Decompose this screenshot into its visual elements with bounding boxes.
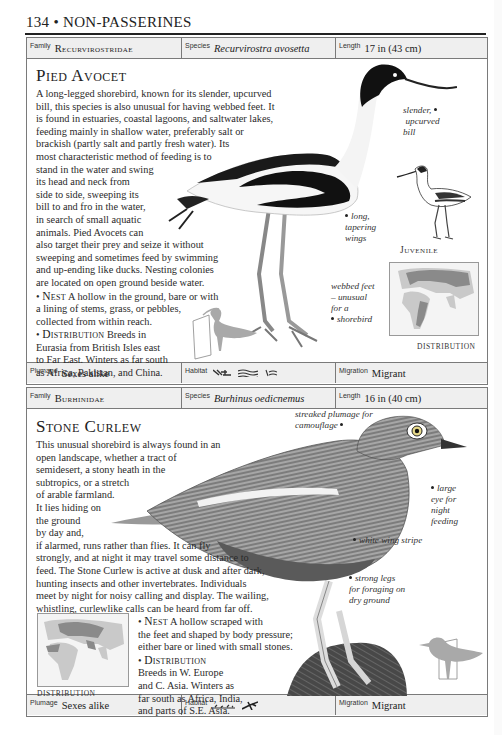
annotation-wing-stripe: white wing stripe: [353, 535, 422, 546]
annotation-bill: slender, upcurved bill: [403, 105, 440, 138]
description-line: semidesert, a stony heath in the: [36, 464, 269, 477]
distribution-line: and parts of S.E. Asia.: [138, 705, 293, 718]
description-line: sweeping and sometimes feed by swimming: [36, 252, 275, 265]
nest-line: the feet and shaped by body pressure;: [138, 629, 293, 642]
species-title: Stone Curlew: [36, 417, 141, 437]
plumage-value: Sexes alike: [62, 700, 110, 711]
species-value: Burhinus oedicnemus: [214, 393, 305, 404]
distribution-line: Breeds in W. Europe: [138, 667, 293, 680]
nest-line: either bare or lined with small stones.: [138, 641, 293, 654]
juvenile-caption: Juvenile: [400, 245, 438, 255]
habitat-label: Habitat: [185, 367, 207, 374]
description-line: by day and,: [36, 527, 269, 540]
length-label: Length: [339, 42, 360, 49]
plumage-label: Plumage: [30, 367, 58, 374]
distribution-line: and C. Asia. Winters as: [138, 680, 293, 693]
family-label: Family: [30, 42, 51, 49]
description-line: It lies hiding on: [36, 502, 269, 515]
family-cell: Family Recurvirostridae: [27, 38, 182, 58]
length-value: 16 in (40 cm): [364, 393, 421, 404]
description-line: meet by night for noisy calling and disp…: [36, 590, 269, 603]
description-line: A long-legged shorebird, known for its s…: [36, 88, 275, 101]
map-caption: DISTRIBUTION: [417, 342, 476, 351]
length-value: 17 in (43 cm): [364, 43, 421, 54]
world-map-icon: [38, 614, 128, 686]
species-cell: Species Burhinus oedicnemus: [182, 388, 336, 408]
description-line: subtropics, or a stretch: [36, 477, 269, 490]
annotation-wings: long, tapering wings: [345, 211, 376, 244]
description-line: if alarmed, runs rather than flies. It c…: [36, 540, 269, 553]
entry-top-bar: Family Burhinidae Species Burhinus oedic…: [27, 388, 487, 409]
species-label: Species: [185, 392, 210, 399]
annotation-feet: webbed feet – unusual for a shorebird: [331, 281, 375, 325]
migration-cell: Migration Migrant: [336, 363, 487, 383]
distribution-label: Distribution: [42, 328, 104, 340]
description-line: bill to and fro in the water,: [36, 201, 275, 214]
description-line: most characteristic method of feeding is…: [36, 151, 275, 164]
family-cell: Family Burhinidae: [27, 388, 182, 408]
description-line: of arable farmland.: [36, 489, 269, 502]
family-value: Burhinidae: [55, 393, 105, 404]
description-line: also target their prey and seize it with…: [36, 239, 275, 252]
species-description: This unusual shorebird is always found i…: [36, 439, 269, 615]
size-comparison-silhouette: [417, 635, 487, 685]
family-value: Recurvirostridae: [55, 43, 133, 54]
world-map-icon: [390, 263, 478, 335]
distribution-line: as Africa, Pakistan, and China.: [36, 367, 275, 380]
description-line: bill, this species is also unusual for h…: [36, 101, 275, 114]
entry-top-bar: Family Recurvirostridae Species Recurvir…: [27, 38, 487, 59]
description-line: and up-ending like ducks. Nesting coloni…: [36, 264, 275, 277]
nest-text: A hollow scraped with: [170, 616, 263, 627]
nest-label: Nest: [42, 290, 66, 302]
habitat-label: Habitat: [185, 699, 207, 706]
length-label: Length: [339, 392, 360, 399]
annotation-eye: large eye for night feeding: [431, 483, 458, 527]
nest-text: A hollow in the ground, bare or with: [68, 291, 218, 302]
description-line: in search of small aquatic: [36, 214, 275, 227]
page-header: 134 • NON-PASSERINES: [26, 14, 192, 31]
distribution-text: Breeds in: [107, 329, 146, 340]
species-title: Pied Avocet: [36, 66, 127, 86]
header-rule: [25, 33, 486, 35]
nest-section: • Nest A hollow scraped with: [138, 615, 293, 629]
description-line: This unusual shorebird is always found i…: [36, 439, 269, 452]
nest-label: Nest: [144, 615, 168, 627]
description-line: brackish (partly salt and partly fresh w…: [36, 138, 275, 151]
nest-section: • Nest A hollow in the ground, bare or w…: [36, 290, 275, 304]
annotation-plumage: streaked plumage for camouflage: [295, 409, 373, 431]
family-label: Family: [30, 392, 51, 399]
distribution-label: Distribution: [144, 654, 206, 666]
entry-body: Stone Curlew This unusual shorebird is a…: [27, 409, 487, 694]
distribution-line: far south as Africa, India,: [138, 693, 293, 706]
species-value: Recurvirostra avosetta: [214, 43, 310, 54]
migration-label: Migration: [339, 367, 368, 374]
description-line: is found in estuaries, coastal lagoons, …: [36, 113, 275, 126]
description-line: strongly, and at night it may travel som…: [36, 552, 269, 565]
description-line: open landscape, whether a tract of: [36, 452, 269, 465]
annotation-legs: strong legs for foraging on dry ground: [349, 573, 405, 606]
description-line: feeding mainly in shallow water, prefera…: [36, 126, 275, 139]
migration-value: Migrant: [372, 368, 406, 379]
distribution-map: [37, 613, 129, 687]
description-line: hunting insects and other invertebrates.…: [36, 578, 269, 591]
distribution-section: • Distribution: [138, 654, 293, 668]
entry-pied-avocet: Family Recurvirostridae Species Recurvir…: [26, 37, 488, 385]
species-cell: Species Recurvirostra avosetta: [182, 38, 336, 58]
description-line: are located on open ground beside water.: [36, 277, 275, 290]
entry-body: Pied Avocet A long-legged shorebird, kno…: [27, 59, 487, 362]
species-label: Species: [185, 42, 210, 49]
plumage-label: Plumage: [30, 699, 58, 706]
migration-value: Migrant: [372, 700, 406, 711]
length-cell: Length 16 in (40 cm): [336, 388, 487, 408]
description-line: stand in the water and swing: [36, 164, 275, 177]
migration-label: Migration: [339, 699, 368, 706]
length-cell: Length 17 in (43 cm): [336, 38, 487, 58]
page-edge: [494, 0, 502, 735]
entry-stone-curlew: Family Burhinidae Species Burhinus oedic…: [26, 387, 488, 717]
description-line: side to side, sweeping its: [36, 189, 275, 202]
distribution-map: [389, 262, 479, 336]
description-line: its head and neck from: [36, 176, 275, 189]
nest-distribution-block: • Nest A hollow scraped with the feet an…: [138, 615, 293, 718]
description-line: feed. The Stone Curlew is active at dusk…: [36, 565, 269, 578]
size-comparison-silhouette: [189, 307, 261, 363]
